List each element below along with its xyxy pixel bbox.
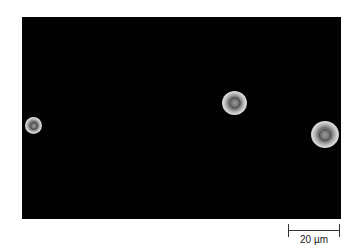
cell-center	[222, 91, 247, 115]
cell-nucleus	[319, 129, 331, 141]
micrograph-image	[22, 17, 341, 219]
cell-nucleus	[30, 122, 38, 130]
cell-nucleus	[229, 98, 240, 109]
cell-left	[25, 117, 42, 134]
scale-bar-line	[288, 230, 340, 231]
cell-right	[311, 121, 339, 148]
scale-bar-label: 20 µm	[288, 234, 340, 245]
